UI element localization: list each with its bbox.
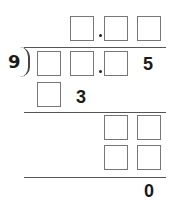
dividend-digit-box-2[interactable] xyxy=(70,51,94,76)
quotient-digit-box-2[interactable] xyxy=(104,16,128,41)
dividend-digit-box-1[interactable] xyxy=(37,51,61,76)
division-bar xyxy=(24,47,166,48)
divisor: 9 xyxy=(8,53,21,71)
dividend-decimal-point xyxy=(99,70,102,73)
quotient-decimal-point xyxy=(99,34,102,37)
subtraction-line-2 xyxy=(24,177,166,178)
step3-digit-box-2[interactable] xyxy=(137,145,161,170)
dividend-trailing-digit: 5 xyxy=(143,55,153,73)
quotient-digit-box-1[interactable] xyxy=(70,16,94,41)
division-bracket xyxy=(20,47,30,77)
subtraction-line-1 xyxy=(24,112,166,113)
dividend-digit-box-3[interactable] xyxy=(104,51,128,76)
step3-digit-box-1[interactable] xyxy=(104,145,128,170)
quotient-digit-box-3[interactable] xyxy=(137,16,161,41)
step2-digit-box-2[interactable] xyxy=(137,115,161,140)
step1-digit-box[interactable] xyxy=(37,82,61,107)
step1-digit: 3 xyxy=(76,88,86,106)
step2-digit-box-1[interactable] xyxy=(104,115,128,140)
remainder: 0 xyxy=(144,182,154,200)
